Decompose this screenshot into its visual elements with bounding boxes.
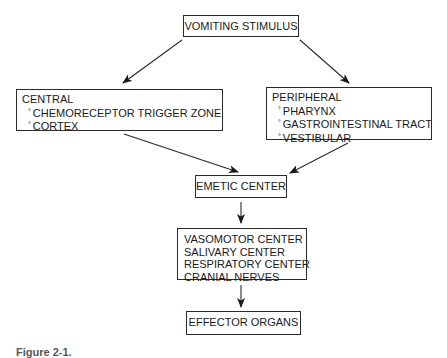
list-item: °CORTEX (22, 119, 217, 133)
list-item: °VESTIBULAR (272, 131, 426, 145)
node-label: VOMITING STIMULUS (184, 20, 297, 32)
node-label: EFFECTOR ORGANS (189, 316, 299, 328)
node-title: CENTRAL (22, 93, 217, 106)
list-item: CRANIAL NERVES (184, 271, 300, 284)
node-peripheral: PERIPHERAL °PHARYNX °GASTROINTESTINAL TR… (266, 87, 432, 140)
arrow-central-to-emetic (124, 134, 238, 172)
list-item: RESPIRATORY CENTER (184, 258, 300, 271)
arrow-stimulus-to-peripheral (300, 40, 349, 83)
list-item: °CHEMORECEPTOR TRIGGER ZONE (22, 106, 217, 120)
bullet-icon: ° (28, 108, 31, 115)
bullet-icon: ° (28, 121, 31, 128)
figure-caption: Figure 2-1. (16, 346, 72, 358)
node-vomiting-stimulus: VOMITING STIMULUS (183, 15, 299, 37)
bullet-icon: ° (278, 119, 281, 126)
node-output-centers: VASOMOTOR CENTER SALIVARY CENTER RESPIRA… (177, 228, 307, 280)
arrow-peripheral-to-emetic (290, 143, 348, 173)
list-item: SALIVARY CENTER (184, 246, 300, 259)
bullet-icon: ° (278, 106, 281, 113)
list-item: °PHARYNX (272, 104, 426, 118)
arrow-stimulus-to-central (123, 40, 182, 83)
list-item: °GASTROINTESTINAL TRACT (272, 117, 426, 131)
bullet-icon: ° (278, 133, 281, 140)
node-emetic-center: EMETIC CENTER (195, 175, 287, 198)
node-label: EMETIC CENTER (196, 180, 286, 192)
node-title: PERIPHERAL (272, 91, 426, 104)
node-effector-organs: EFFECTOR ORGANS (186, 311, 301, 335)
list-item: VASOMOTOR CENTER (184, 233, 300, 246)
node-central: CENTRAL °CHEMORECEPTOR TRIGGER ZONE °COR… (16, 89, 223, 131)
